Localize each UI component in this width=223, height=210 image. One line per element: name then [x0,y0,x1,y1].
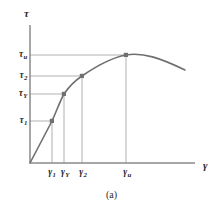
y-tick-sub-tau-y: Y [23,92,27,99]
y-tick-sub-tau-2: 2 [24,74,27,81]
stress-strain-curve [30,54,185,163]
y-tick-label-tau-u: τu [19,50,27,60]
marker-point-2 [80,74,84,78]
y-tick-label-tau-y: τY [19,89,27,99]
y-tick-label-tau-2: τ2 [19,71,27,81]
y-tick-sub-tau-1: 1 [24,119,27,126]
x-tick-sub-gamma-1: 1 [53,171,56,178]
x-tick-sub-gamma-2: 2 [84,171,87,178]
x-tick-label-gamma-u: γu [123,168,131,178]
marker-point-1 [50,119,54,123]
horizontal-leader-lines [30,55,126,121]
x-tick-label-gamma-y: γY [61,168,69,178]
plot-canvas [0,0,223,210]
x-tick-sub-gamma-y: Y [65,171,69,178]
marker-point-yield [62,92,66,96]
x-axis-label: γ [203,160,208,171]
stress-strain-figure: τ γ τu τ2 τY τ1 γ1 γY γ2 γu (a) [0,0,223,210]
y-axis-label: τ [24,8,29,19]
marker-point-ultimate [124,53,128,57]
y-tick-sub-tau-u: u [24,53,28,60]
x-tick-sub-gamma-u: u [127,171,131,178]
data-point-markers [50,53,128,123]
figure-caption: (a) [0,190,223,200]
x-tick-label-gamma-1: γ1 [48,168,55,178]
x-tick-label-gamma-2: γ2 [79,168,86,178]
y-tick-label-tau-1: τ1 [19,116,27,126]
